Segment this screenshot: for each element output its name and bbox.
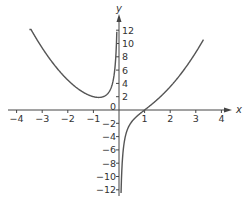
- x-tick-label: −3: [35, 113, 49, 124]
- y-tick-label: 6: [122, 65, 128, 76]
- y-tick-label: 8: [122, 51, 128, 62]
- x-tick-label: 2: [167, 113, 173, 124]
- x-tick-label: −4: [10, 113, 24, 124]
- y-tick-label: −6: [102, 144, 116, 155]
- y-tick-label: −2: [102, 118, 116, 129]
- y-tick-label: 10: [122, 38, 134, 49]
- curve-right-branch: [121, 40, 203, 193]
- x-tick-label: −1: [86, 113, 100, 124]
- curve-left-branch: [29, 30, 116, 98]
- y-axis-label: y: [115, 3, 123, 14]
- y-tick-label: 4: [122, 78, 128, 89]
- function-graph: xy−4−3−2−11234012108642−2−4−6−8−10−12: [0, 0, 246, 204]
- axes: [8, 14, 232, 196]
- x-axis-label: x: [235, 104, 242, 115]
- y-tick-label: −12: [96, 184, 116, 195]
- x-axis-arrow-icon: [224, 108, 232, 113]
- y-tick-label: 2: [122, 91, 128, 102]
- x-tick-label: 1: [142, 113, 148, 124]
- tick-labels: xy−4−3−2−11234012108642−2−4−6−8−10−12: [10, 3, 242, 195]
- origin-label: 0: [110, 101, 116, 112]
- x-tick-label: −2: [61, 113, 75, 124]
- y-tick-label: 12: [122, 25, 134, 36]
- y-axis-arrow-icon: [117, 14, 122, 22]
- y-tick-label: −8: [102, 158, 116, 169]
- y-tick-label: −10: [96, 171, 116, 182]
- x-tick-label: 3: [193, 113, 199, 124]
- x-tick-label: 4: [218, 113, 224, 124]
- y-tick-label: −4: [102, 131, 116, 142]
